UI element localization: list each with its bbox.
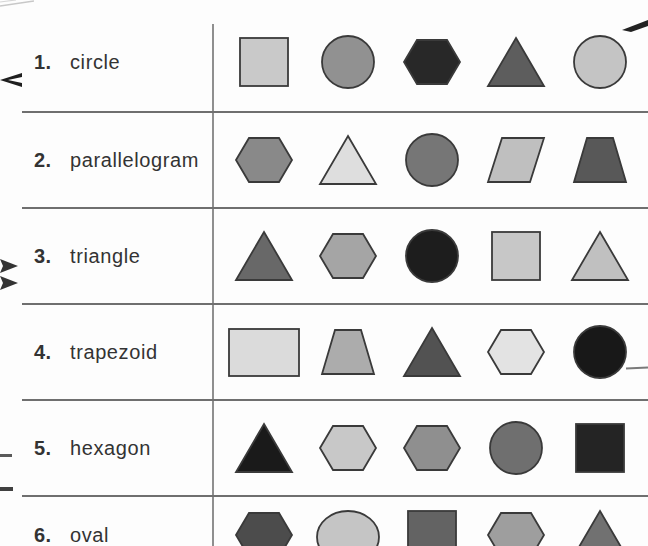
worksheet-row-oval: 6. oval [0, 496, 648, 546]
shape-circle [474, 419, 558, 477]
shape-circle [558, 33, 642, 91]
shape-hexagon [306, 419, 390, 477]
shape-hexagon [222, 131, 306, 189]
shape-options [222, 323, 642, 381]
row-label: parallelogram [70, 149, 199, 172]
shape-triangle [558, 227, 642, 285]
shape-hexagon [474, 323, 558, 381]
worksheet-row-triangle: 3. triangle [0, 208, 648, 304]
shape-circle [306, 33, 390, 91]
shape-triangle [222, 227, 306, 285]
row-label: circle [70, 51, 120, 74]
shape-options [222, 131, 642, 189]
shape-options [222, 506, 642, 546]
shape-circle [558, 323, 642, 381]
shape-hexagon [306, 227, 390, 285]
shape-parallelogram [474, 131, 558, 189]
row-label: hexagon [70, 437, 151, 460]
shape-square [558, 419, 642, 477]
worksheet-page: 1. circle 2. parallelogram 3. triangle 4… [0, 0, 648, 546]
shape-triangle [390, 323, 474, 381]
worksheet-row-hexagon: 5. hexagon [0, 400, 648, 496]
shape-options [222, 33, 642, 91]
row-label: triangle [70, 245, 140, 268]
corner-scan-mark-icon [0, 0, 34, 10]
shape-trapezoid [558, 131, 642, 189]
shape-circle [390, 227, 474, 285]
shape-options [222, 227, 642, 285]
row-number: 2. [34, 149, 52, 172]
shape-hexagon [474, 506, 558, 546]
shape-square [222, 33, 306, 91]
worksheet-row-circle: 1. circle [0, 14, 648, 110]
worksheet-row-parallelogram: 2. parallelogram [0, 112, 648, 208]
row-number: 6. [34, 524, 52, 546]
shape-oval [306, 506, 390, 546]
worksheet-row-trapezoid: 4. trapezoid [0, 304, 648, 400]
shape-square [474, 227, 558, 285]
shape-rectangle [222, 323, 306, 381]
row-label: trapezoid [70, 341, 158, 364]
shape-circle [390, 131, 474, 189]
row-number: 5. [34, 437, 52, 460]
shape-triangle [474, 33, 558, 91]
shape-hexagon [222, 506, 306, 546]
shape-square [390, 506, 474, 546]
row-number: 1. [34, 51, 52, 74]
shape-triangle [306, 131, 390, 189]
row-label: oval [70, 524, 109, 546]
shape-trapezoid [306, 323, 390, 381]
shape-options [222, 419, 642, 477]
row-number: 3. [34, 245, 52, 268]
row-number: 4. [34, 341, 52, 364]
shape-triangle [558, 506, 642, 546]
shape-hexagon [390, 33, 474, 91]
shape-triangle [222, 419, 306, 477]
shape-hexagon [390, 419, 474, 477]
